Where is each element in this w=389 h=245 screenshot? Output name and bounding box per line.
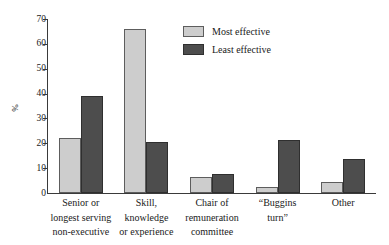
legend-item-most-effective: Most effective: [183, 24, 271, 39]
legend-label-least-effective: Least effective: [212, 44, 271, 55]
legend-item-least-effective: Least effective: [183, 42, 271, 57]
bar-most-effective-5: [321, 182, 343, 193]
bar-most-effective-2: [124, 29, 146, 193]
x-axis-category-labels: Senior orlongest servingnon-executiveSki…: [48, 196, 376, 245]
chart-legend: Most effectiveLeast effective: [183, 24, 271, 60]
bar-group-5: [321, 19, 365, 193]
bar-most-effective-3: [190, 177, 212, 193]
x-label-5: Other: [302, 196, 384, 211]
x-label-line: Other: [302, 196, 384, 211]
bar-most-effective-4: [256, 187, 278, 193]
x-label-line: turn”: [237, 211, 319, 226]
x-axis-line: [47, 193, 376, 194]
bar-chart: % 706050403020100 Most effectiveLeast ef…: [0, 0, 389, 245]
bar-least-effective-4: [278, 140, 300, 193]
bar-least-effective-5: [343, 159, 365, 193]
bar-group-1: [59, 19, 103, 193]
x-label-line: committee: [171, 225, 253, 240]
bar-least-effective-3: [212, 174, 234, 193]
bar-most-effective-1: [59, 138, 81, 193]
bar-least-effective-2: [146, 142, 168, 193]
legend-swatch-most-effective: [183, 26, 204, 37]
legend-label-most-effective: Most effective: [212, 26, 270, 37]
bar-group-2: [124, 19, 168, 193]
legend-swatch-least-effective: [183, 44, 204, 55]
bar-least-effective-1: [81, 96, 103, 193]
